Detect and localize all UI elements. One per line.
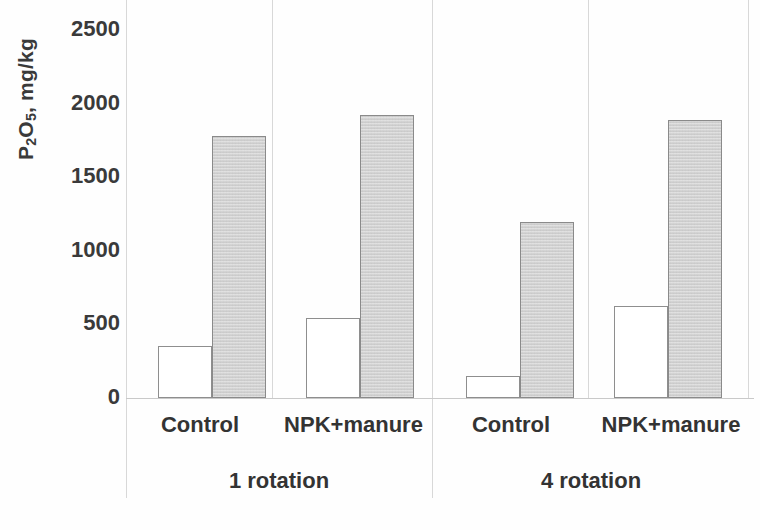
x-group-label-rotation4: 4 rotation (434, 468, 748, 494)
x-label-rotation4-npkmanure: NPK+manure (592, 412, 750, 438)
y-tick-1500: 1500 (42, 165, 120, 187)
y-tick-2000: 2000 (42, 92, 120, 114)
bar-rotation4-control-white[interactable] (466, 376, 520, 398)
y-tick-2500: 2500 (42, 18, 120, 40)
x-group-label-rotation1: 1 rotation (128, 468, 430, 494)
bars-layer (126, 0, 754, 398)
x-label-rotation1-control: Control (130, 412, 270, 438)
bar-rotation1-npkmanure-white[interactable] (306, 318, 360, 398)
y-tick-1000: 1000 (42, 239, 120, 261)
bar-rotation4-npkmanure-gray[interactable] (668, 120, 722, 398)
y-axis-title-text: P2O5, mg/kg (14, 38, 37, 160)
bar-rotation1-control-gray[interactable] (212, 136, 266, 398)
y-tick-0: 0 (42, 386, 120, 408)
bar-rotation4-control-gray[interactable] (520, 222, 574, 398)
bar-rotation1-npkmanure-gray[interactable] (360, 115, 414, 398)
x-axis-baseline (126, 398, 754, 399)
bar-rotation4-npkmanure-white[interactable] (614, 306, 668, 398)
bar-rotation1-control-white[interactable] (158, 346, 212, 398)
x-label-rotation4-control: Control (436, 412, 586, 438)
y-tick-500: 500 (42, 312, 120, 334)
chart-figure: P2O5, mg/kg 2500 2000 1500 1000 500 0 Co… (0, 0, 760, 530)
x-label-rotation1-npkmanure: NPK+manure (276, 412, 431, 438)
y-axis-tick-labels: 2500 2000 1500 1000 500 0 (42, 0, 120, 530)
